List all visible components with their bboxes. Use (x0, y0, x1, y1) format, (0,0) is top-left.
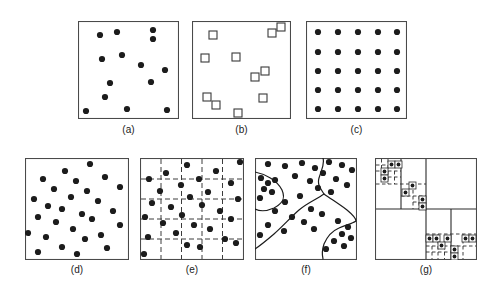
panel-g (375, 158, 477, 260)
caption-d: (d) (25, 264, 129, 275)
leaf-marker (402, 189, 409, 196)
leaf-marker (462, 235, 469, 242)
leaf-marker (409, 182, 416, 189)
leaf-marker (433, 235, 440, 242)
caption-a: (a) (78, 124, 179, 135)
leaf-marker (438, 242, 445, 249)
leaf-marker (444, 235, 451, 242)
panel-b (192, 21, 291, 119)
caption-b: (b) (192, 124, 291, 135)
leaf-marker (426, 235, 433, 242)
caption-c: (c) (306, 124, 407, 135)
leaf-marker (395, 161, 402, 168)
leaf-marker (381, 175, 388, 182)
leaf-marker (469, 235, 476, 242)
caption-f: (f) (255, 264, 357, 275)
caption-e: (e) (140, 264, 244, 275)
leaf-marker (381, 168, 388, 175)
leaf-marker (419, 196, 426, 203)
leaf-marker (419, 203, 426, 210)
caption-g: (g) (375, 264, 477, 275)
panel-c (306, 21, 407, 119)
panel-d (25, 158, 129, 260)
leaf-marker (388, 161, 395, 168)
figure-root: (a) (b) (0, 0, 487, 289)
panel-e (140, 158, 244, 260)
leaf-marker (451, 246, 458, 253)
leaf-marker (451, 253, 458, 260)
panel-f (255, 158, 357, 260)
panel-e-frame (141, 159, 244, 260)
panel-a (78, 21, 179, 119)
